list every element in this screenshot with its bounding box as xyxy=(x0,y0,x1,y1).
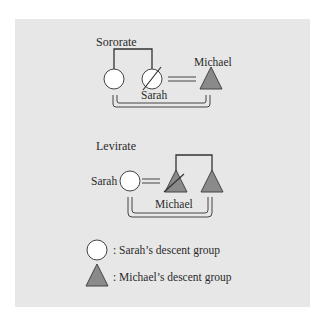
sororate-michael-label: Michael xyxy=(194,56,232,68)
sister-circle-icon xyxy=(104,69,124,89)
legend-triangle-icon xyxy=(86,264,108,286)
legend-circle-icon xyxy=(87,240,107,260)
sarah-circle-icon xyxy=(120,171,140,191)
legend-sarah-label: : Sarah’s descent group xyxy=(113,244,220,257)
sororate-sarah-label: Sarah xyxy=(141,89,167,101)
levirate-section: Levirate Sarah Michael xyxy=(91,139,223,217)
brother-triangle-icon xyxy=(201,170,223,192)
legend: : Sarah’s descent group : Michael’s desc… xyxy=(86,240,232,286)
legend-michael-label: : Michael’s descent group xyxy=(113,271,232,284)
levirate-sarah-label: Sarah xyxy=(91,175,117,187)
michael-triangle-icon xyxy=(200,67,222,89)
levirate-michael-label: Michael xyxy=(155,198,193,210)
levirate-title: Levirate xyxy=(96,139,136,153)
sororate-title: Sororate xyxy=(96,35,137,49)
sibling-bracket xyxy=(114,49,152,69)
kinship-diagram: Sororate Sarah Michael Levirate Sarah xyxy=(0,0,322,319)
brother-bracket xyxy=(176,155,212,173)
sororate-section: Sororate Sarah Michael xyxy=(96,35,232,107)
